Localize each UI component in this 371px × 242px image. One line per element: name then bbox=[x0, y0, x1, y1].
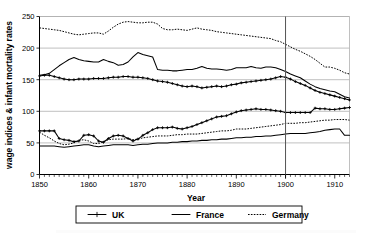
x-tick-label-1890: 1890 bbox=[228, 180, 245, 189]
y-tick-label-0: 0 bbox=[30, 170, 34, 179]
chart-legend: UKFranceGermany bbox=[76, 206, 309, 223]
y-tick-label-100: 100 bbox=[22, 107, 35, 116]
x-tick-label-1910: 1910 bbox=[326, 180, 343, 189]
x-tick-label-1900: 1900 bbox=[277, 180, 294, 189]
legend-items: UKFranceGermany bbox=[88, 210, 309, 220]
y-tick-label-150: 150 bbox=[22, 76, 35, 85]
legend-label-germany: Germany bbox=[272, 210, 309, 220]
x-tick-label-1850: 1850 bbox=[31, 180, 48, 189]
x-tick-label-1880: 1880 bbox=[179, 180, 196, 189]
y-tick-label-50: 50 bbox=[26, 139, 34, 148]
x-axis-title: Year bbox=[187, 193, 206, 203]
line-chart: wage indices & infant mortality rates 05… bbox=[0, 0, 371, 242]
y-tick-label-200: 200 bbox=[22, 44, 35, 53]
chart-figure: wage indices & infant mortality rates 05… bbox=[0, 0, 371, 242]
caption-strip bbox=[56, 230, 356, 233]
y-tick-label-250: 250 bbox=[22, 12, 35, 21]
x-tick-label-1870: 1870 bbox=[130, 180, 147, 189]
x-tick-label-1860: 1860 bbox=[80, 180, 97, 189]
y-axis-title: wage indices & infant mortality rates bbox=[4, 21, 14, 170]
legend-label-france: France bbox=[196, 210, 224, 220]
legend-label-uk: UK bbox=[112, 210, 125, 220]
